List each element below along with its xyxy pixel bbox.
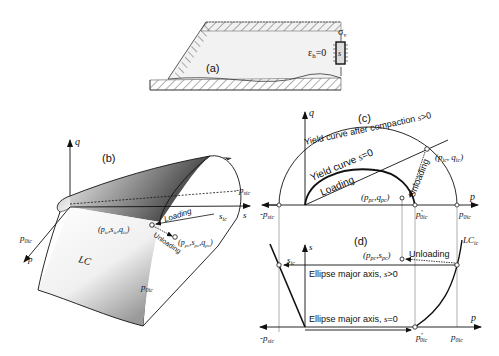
c-point-ic (425, 147, 430, 152)
suction-label: s (338, 49, 341, 58)
panel-d-label: (d) (354, 235, 367, 247)
panel-a-label: (a) (206, 62, 219, 74)
d-unloading-label: Unloading (409, 249, 450, 259)
d-point-pc-label: (ppc,spc) (363, 250, 391, 261)
foundation-layer (150, 78, 341, 90)
panel-b-3d-yield-surface: q s -psic sic p p0ic p0ic LC Loading Un (19, 136, 251, 326)
stress-label: σv (338, 26, 346, 38)
d-sic-label: sic (287, 255, 295, 266)
panel-b-label: (b) (102, 152, 115, 164)
panel-a-embankment: (a) s σv εh=0 (150, 22, 348, 90)
d-p0ic-label: p0ic (450, 332, 463, 343)
d-point-pc (400, 257, 404, 261)
c-neg-psic-label: -psic (260, 209, 275, 220)
c-p0ic-star-label: p*0ic (415, 209, 428, 220)
p-axis-label: p (27, 254, 33, 264)
d-neg-psic-label: -psic (260, 333, 275, 344)
d-major-axis-zero-label: Ellipse major axis, s=0 (309, 314, 398, 324)
d-p0ic-star-label: p*0ic (415, 332, 428, 343)
embankment-top-layer (201, 22, 341, 31)
s-axis-label: s (243, 210, 247, 220)
d-lc-label: LCic (462, 235, 479, 246)
b-neg-psic-label: -psic (236, 185, 251, 196)
b-p0ic-star-label: p0ic (19, 233, 32, 244)
figure-canvas: (a) s σv εh=0 q (0, 0, 499, 356)
c-q-axis-label: q (309, 107, 314, 118)
c-p0ic-label: p0ic (458, 209, 471, 220)
panel-c-label: (c) (358, 112, 371, 124)
d-unloading-arrow (406, 259, 455, 263)
c-point-pc-label: (ppc,qpc) (361, 192, 390, 203)
panel-d-lc-curve: s p LCic Unloading (ppc,spc) sic Ellipse… (260, 235, 481, 344)
c-p-axis-label: p (469, 191, 475, 202)
c-point-ic-label: (pic, qic) (435, 152, 463, 163)
d-s-axis-label: s (309, 242, 313, 252)
b-point-pc (173, 235, 178, 240)
c-unloading-label: Unloading (407, 157, 431, 198)
d-p-axis-label: p (470, 312, 476, 323)
c-point-pc (400, 196, 404, 200)
q-axis-label: q (75, 136, 80, 147)
d-major-axis-pos-label: Ellipse major axis, s>0 (309, 269, 398, 279)
